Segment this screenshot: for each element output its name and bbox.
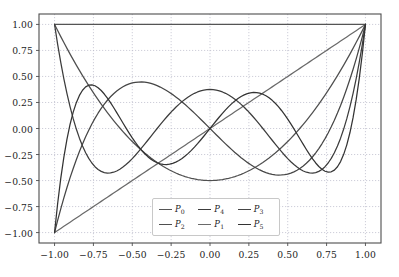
legend-entry-p1[interactable]: P1	[196, 217, 235, 232]
legend-entry-p0[interactable]: P0	[157, 202, 196, 217]
legend-label: P1	[214, 220, 224, 228]
legend-label: P3	[254, 205, 264, 213]
legend-line-swatch-icon	[198, 224, 211, 225]
legend-line-swatch-icon	[159, 209, 172, 210]
x-tick-label-8: 1.00	[355, 249, 376, 260]
legend-line-swatch-icon	[159, 224, 172, 225]
legend-label: P4	[214, 205, 224, 213]
legend-entry-p2[interactable]: P2	[157, 217, 196, 232]
y-tick-label-4: 0.00	[12, 123, 33, 134]
y-tick-label-6: 0.50	[12, 71, 33, 82]
y-tick-label-8: 1.00	[12, 19, 33, 30]
y-tick-label-1: −0.75	[4, 201, 33, 212]
legend-entry-p5[interactable]: P5	[236, 217, 275, 232]
legend-entry-p3[interactable]: P3	[236, 202, 275, 217]
legend-label: P0	[175, 205, 185, 213]
legend-grid: P0P4P3P2P1P5	[153, 199, 279, 235]
y-tick-label-0: −1.00	[4, 227, 33, 238]
legend-label: P5	[254, 220, 264, 228]
y-tick-label-2: −0.50	[4, 175, 33, 186]
legend-line-swatch-icon	[238, 209, 251, 210]
x-tick-label-4: 0.00	[200, 249, 221, 260]
chart-figure: −1.00−0.75−0.50−0.250.000.250.500.751.00…	[0, 0, 399, 277]
legend[interactable]: P0P4P3P2P1P5	[152, 198, 280, 236]
x-tick-label-5: 0.25	[238, 249, 259, 260]
y-tick-label-5: 0.25	[12, 97, 33, 108]
x-tick-label-3: −0.25	[157, 249, 186, 260]
y-tick-label-3: −0.25	[4, 149, 33, 160]
x-tick-label-0: −1.00	[40, 249, 69, 260]
x-tick-label-6: 0.50	[277, 249, 298, 260]
x-tick-label-2: −0.50	[118, 249, 147, 260]
legend-entry-p4[interactable]: P4	[196, 202, 235, 217]
x-tick-label-7: 0.75	[316, 249, 337, 260]
y-tick-label-7: 0.75	[12, 45, 33, 56]
legend-label: P2	[175, 220, 185, 228]
legend-line-swatch-icon	[238, 224, 251, 225]
x-tick-label-1: −0.75	[79, 249, 108, 260]
legend-line-swatch-icon	[198, 209, 211, 210]
